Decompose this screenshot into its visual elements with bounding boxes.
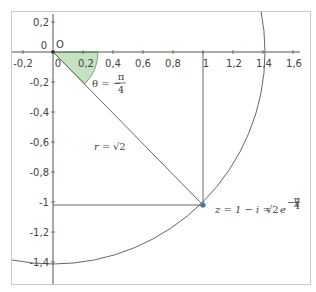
svg-text:r =: r =	[94, 141, 110, 152]
x-tick-label: -0,2	[13, 58, 33, 69]
point-z	[200, 202, 205, 207]
y-tick-label: -0,4	[29, 107, 49, 118]
x-tick-label: 0,6	[135, 58, 151, 69]
svg-text:4: 4	[118, 84, 124, 95]
y-tick-label: -1	[39, 197, 49, 208]
y-tick-label: -0,8	[29, 167, 49, 178]
y-tick-label: -1,4	[29, 257, 49, 268]
complex-plane-diagram: -0,2 0 0,2 0,4 0,6 0,8 1 1,2 1,4 1,6 0,2…	[0, 0, 316, 292]
y-tick-label: -1,2	[29, 227, 49, 238]
y-tick-label: 0,2	[33, 17, 49, 28]
svg-text:√2: √2	[113, 141, 126, 152]
svg-text:z = 1 − i =: z = 1 − i =	[214, 204, 271, 215]
svg-text:4: 4	[294, 200, 300, 211]
r-label: r = √2	[94, 141, 126, 152]
y-tick-label: 0	[41, 40, 47, 51]
svg-text:e: e	[280, 204, 286, 215]
x-tick-label: 1	[203, 58, 209, 69]
x-tick-label: 0,8	[165, 58, 181, 69]
x-tick-label: 1,6	[286, 58, 302, 69]
origin-label: O	[56, 39, 64, 50]
x-tick-label: 1,2	[226, 58, 242, 69]
x-tick-label: 0,2	[78, 58, 94, 69]
x-tick-label: 1,4	[256, 58, 272, 69]
svg-text:π: π	[118, 71, 125, 82]
svg-text:√2: √2	[266, 204, 279, 215]
x-tick-label: 0,4	[105, 58, 121, 69]
y-tick-label: -0,6	[29, 137, 49, 148]
y-tick-label: -0,2	[29, 77, 49, 88]
